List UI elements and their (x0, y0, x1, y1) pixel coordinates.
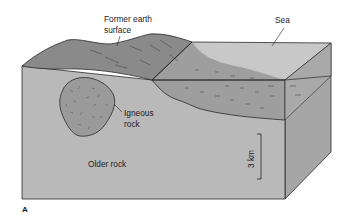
figure-label: A (22, 205, 28, 214)
block-diagram: Former earth surface Sea Igneous rock Ol… (0, 0, 348, 215)
label-former-surface-2: surface (104, 25, 132, 35)
label-older-rock: Older rock (88, 159, 127, 169)
label-former-surface-1: Former earth (104, 14, 152, 24)
label-sea: Sea (275, 15, 290, 25)
label-scale: 3 km (246, 150, 256, 168)
label-igneous-1: Igneous (124, 108, 154, 118)
label-igneous-2: rock (124, 119, 141, 129)
